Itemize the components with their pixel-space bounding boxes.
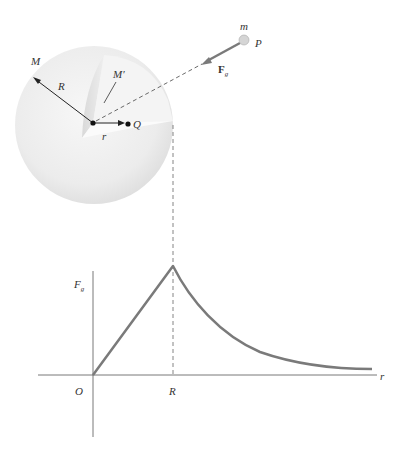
wedge-top-face bbox=[93, 55, 173, 123]
label-y-axis: Fg bbox=[73, 278, 85, 293]
label-m-prime: M′ bbox=[112, 68, 125, 80]
label-origin: O bbox=[75, 385, 83, 397]
force-curve bbox=[93, 266, 372, 375]
label-force: Fg bbox=[218, 63, 229, 78]
label-m-particle: m bbox=[240, 20, 248, 32]
label-m-total: M bbox=[30, 55, 41, 67]
label-r-distance: r bbox=[102, 130, 107, 142]
force-arrow bbox=[201, 43, 240, 65]
graph-axes bbox=[38, 271, 377, 437]
center-point bbox=[90, 120, 95, 125]
label-r-tick: R bbox=[168, 385, 176, 397]
label-p: P bbox=[254, 37, 262, 49]
label-q: Q bbox=[133, 118, 141, 130]
label-x-axis: r bbox=[380, 370, 385, 382]
particle-m bbox=[239, 35, 249, 45]
gravity-sphere-diagram: M R M′ Q r m P Fg Fg r O R bbox=[0, 0, 405, 451]
label-radius: R bbox=[57, 80, 65, 92]
point-q bbox=[125, 121, 130, 126]
